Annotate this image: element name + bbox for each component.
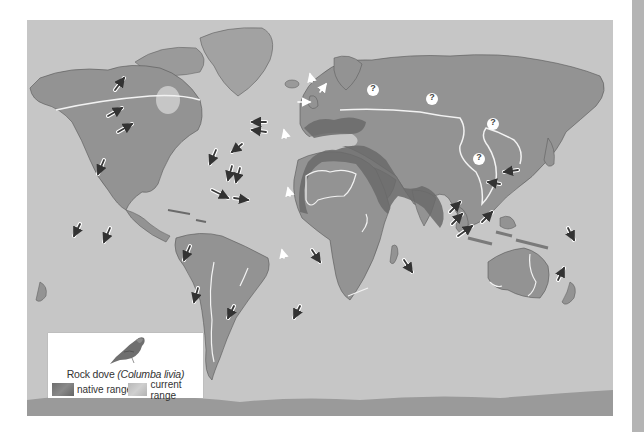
- vertical-scrollbar[interactable]: [632, 0, 644, 432]
- question-marker: ?: [489, 117, 497, 127]
- legend-item-native-range: native range: [52, 383, 132, 396]
- question-marker: ?: [369, 83, 377, 93]
- legend-label: native range: [77, 384, 132, 395]
- rock-dove-icon: [106, 334, 148, 366]
- map-legend: Rock dove (Columba livia) native range c…: [48, 333, 203, 398]
- current-range-swatch: [128, 383, 147, 396]
- legend-common-name: Rock dove: [67, 368, 118, 380]
- question-marker: ?: [428, 92, 436, 102]
- native-range-swatch: [52, 383, 74, 396]
- legend-item-current-range: current range: [128, 383, 203, 396]
- legend-label: current range: [150, 379, 203, 401]
- question-marker: ?: [475, 152, 483, 162]
